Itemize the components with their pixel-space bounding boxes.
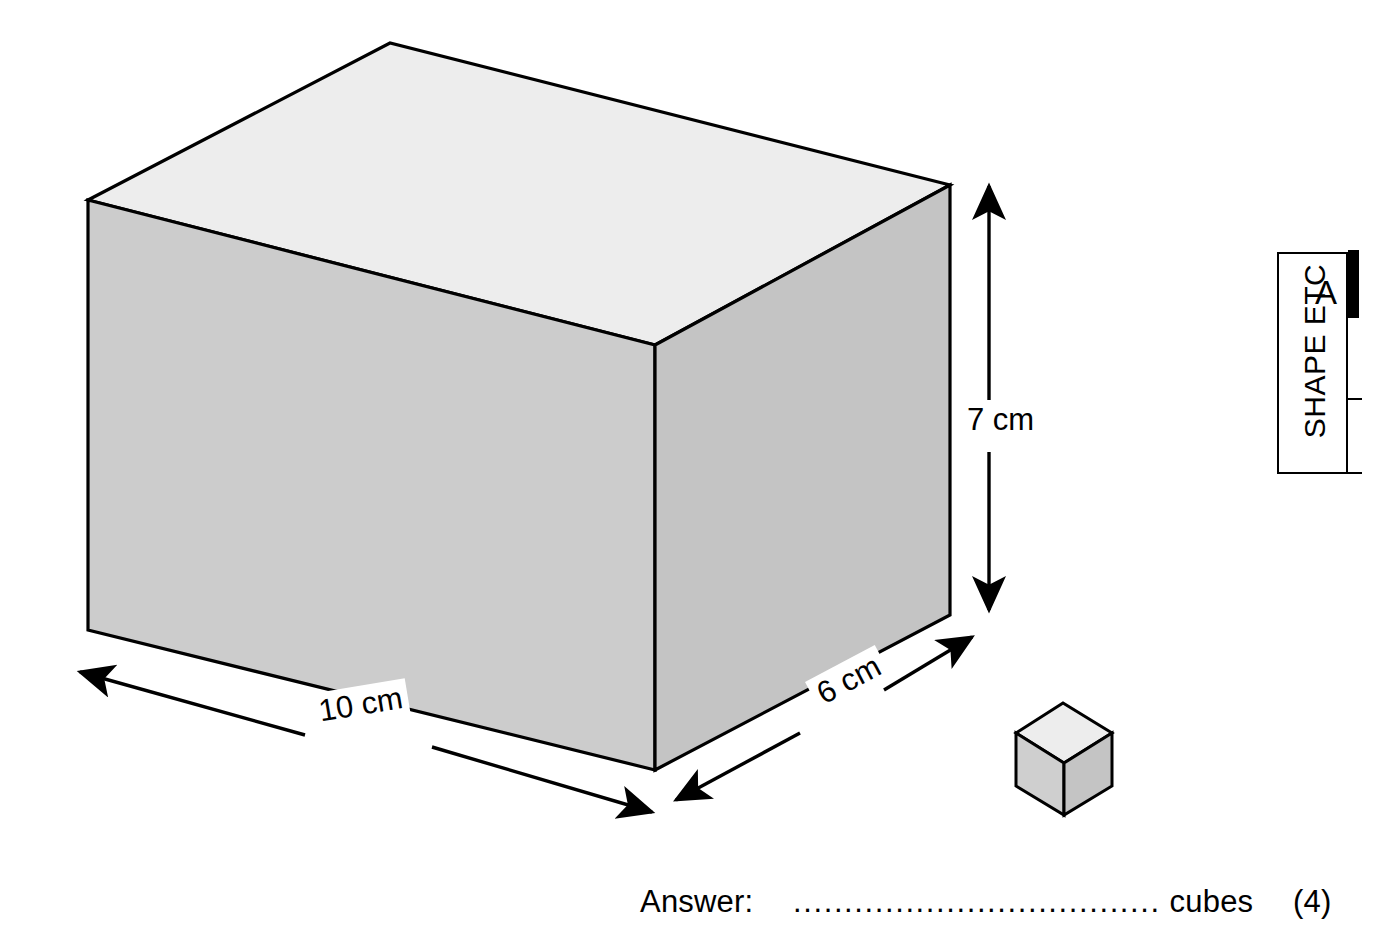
corner-tag-box: SHAPE ETC A xyxy=(1277,252,1348,474)
answer-prompt-label: Answer: xyxy=(640,884,753,919)
geometry-figure xyxy=(0,0,1400,929)
corner-tag-letter: A xyxy=(1315,276,1337,309)
answer-blank-field[interactable]: .................................... xyxy=(793,884,1161,919)
worksheet-page: 7 cm 10 cm 6 cm Answer: ................… xyxy=(0,0,1400,929)
corner-tag-black-bar xyxy=(1348,250,1359,318)
depth-arrow-upper xyxy=(884,637,972,690)
width-arrow-left xyxy=(80,672,305,735)
answer-unit-label: cubes xyxy=(1170,884,1254,919)
corner-tag-rule-middle xyxy=(1348,398,1362,400)
answer-line: Answer: ................................… xyxy=(640,884,1331,920)
corner-tag-rule-bottom xyxy=(1348,472,1362,474)
question-marks-label: (4) xyxy=(1293,884,1332,919)
height-dimension-label: 7 cm xyxy=(962,400,1039,440)
